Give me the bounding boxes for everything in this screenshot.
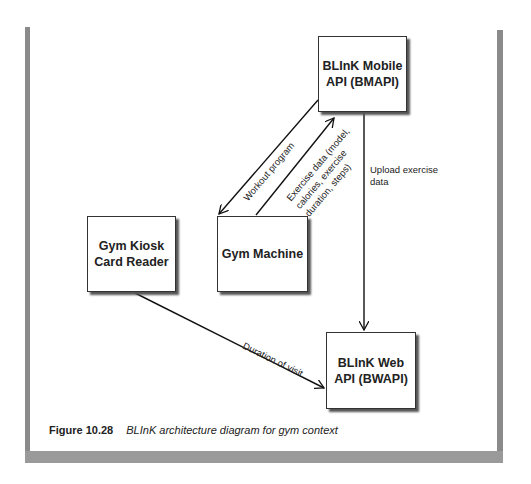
upload-exercise-label-1: Upload exercise [370, 164, 438, 176]
upload-exercise-label-2: data [370, 176, 438, 188]
bwapi-box: BLInK WebAPI (BWAPI) [326, 332, 416, 409]
gym-machine-label: Gym Machine [222, 246, 303, 262]
bmapi-label-1: BLInK Mobile [323, 58, 403, 74]
kiosk-label-2: Card Reader [94, 254, 168, 270]
bmapi-label-2: API (BMAPI) [323, 74, 403, 90]
upload-exercise-label: Upload exercise data [370, 164, 438, 188]
bwapi-label-2: API (BWAPI) [334, 371, 408, 387]
figure-number: Figure 10.28 [49, 424, 113, 436]
figure-caption-text: BLInK architecture diagram for gym conte… [126, 424, 338, 436]
bmapi-box: BLInK MobileAPI (BMAPI) [318, 36, 407, 112]
gym-machine-box: Gym Machine [217, 216, 308, 292]
bwapi-label-1: BLInK Web [334, 355, 408, 371]
figure-caption: Figure 10.28 BLInK architecture diagram … [49, 424, 338, 436]
kiosk-box: Gym KioskCard Reader [87, 216, 176, 292]
kiosk-label-1: Gym Kiosk [94, 238, 168, 254]
